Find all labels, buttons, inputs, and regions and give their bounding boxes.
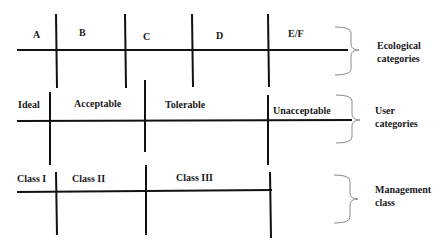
management-divider-i-ii: [56, 172, 57, 235]
segment-label-class-ii: Class II: [72, 173, 105, 184]
management-brace-icon: [334, 175, 358, 223]
ecological-row: A B C D E/F Ecological categories: [17, 14, 421, 88]
segment-label-a: A: [33, 29, 41, 40]
management-divider-iii-end: [270, 172, 271, 238]
segment-label-class-iii: Class III: [176, 172, 213, 183]
category-alignment-diagram: A B C D E/F Ecological categories Ideal …: [0, 0, 448, 249]
segment-label-b: B: [79, 27, 86, 38]
management-category-label-2: class: [375, 197, 395, 208]
management-row: Class I Class II Class III Management cl…: [17, 165, 432, 238]
user-brace-icon: [336, 95, 360, 143]
user-category-label-2: categories: [375, 118, 418, 129]
user-axis-line: [17, 120, 352, 121]
segment-label-class-i: Class I: [17, 173, 46, 184]
ecological-divider-cd: [192, 14, 193, 87]
segment-label-ideal: Ideal: [18, 99, 40, 110]
ecological-divider-def: [268, 14, 269, 87]
ecological-category-label-1: Ecological: [377, 40, 421, 51]
management-category-label-1: Management: [375, 184, 432, 195]
user-category-label-1: User: [375, 105, 396, 116]
segment-label-acceptable: Acceptable: [74, 98, 122, 109]
segment-label-tolerable: Tolerable: [165, 99, 206, 110]
management-axis-line: [17, 190, 272, 192]
user-row: Ideal Acceptable Tolerable Unacceptable …: [17, 80, 418, 165]
segment-label-d: D: [216, 30, 223, 41]
segment-label-c: C: [143, 31, 150, 42]
ecological-category-label-2: categories: [377, 53, 420, 64]
segment-label-unacceptable: Unacceptable: [273, 105, 331, 116]
segment-label-ef: E/F: [288, 28, 304, 39]
ecological-divider-bc: [125, 14, 126, 88]
ecological-divider-ab: [56, 14, 57, 88]
